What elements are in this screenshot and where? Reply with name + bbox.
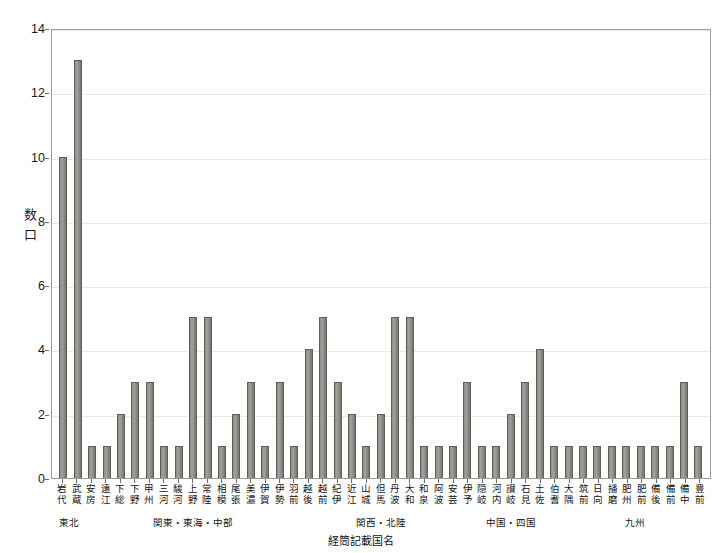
x-tick-label: 肥前 [634,484,648,514]
bar [319,317,327,478]
x-tick-label: 筑前 [576,484,590,514]
x-tick-label-char: 張 [231,495,241,506]
y-tick-label: 6 [1,279,45,293]
x-tick-label: 伯耆 [547,484,561,514]
bar [694,446,702,478]
bar-slot [662,30,676,478]
x-tick-label-char: 向 [593,495,603,506]
bar-slot [301,30,315,478]
bar [88,446,96,478]
x-tick-label-char: 和 [405,495,415,506]
y-tick-mark [45,286,49,287]
x-tick-label-char: 州 [622,495,632,506]
bar-chart: 数口 02468101214 岩代武蔵安房遠江下総下野甲州三河駿河上野常陸相模尾… [0,0,721,553]
x-tick-label-char: 前 [318,495,328,506]
bar [74,60,82,478]
bar [391,317,399,478]
bar-slot [619,30,633,478]
x-tick-label: 下総 [113,484,127,514]
bar-slot [273,30,287,478]
bar-slot [287,30,301,478]
y-tick-label: 14 [1,22,45,36]
x-tick-label-char: 城 [361,495,371,506]
bar-slot [316,30,330,478]
x-tick-label: 尾張 [229,484,243,514]
x-tick-label: 和泉 [417,484,431,514]
x-tick-label-char: 代 [57,495,67,506]
x-tick-label: 三河 [156,484,170,514]
bar-slot [114,30,128,478]
x-tick-label-char: 波 [390,495,400,506]
y-tick-mark [45,479,49,480]
x-tick-label: 肥州 [620,484,634,514]
bar [435,446,443,478]
bar [189,317,197,478]
bar-slot [345,30,359,478]
bar [362,446,370,478]
x-tick-label-char: 予 [463,495,473,506]
bar-slot [229,30,243,478]
x-tick-label-char: 馬 [376,495,386,506]
x-tick-label: 隠岐 [475,484,489,514]
x-tick-label-char: 波 [434,495,444,506]
bar [579,446,587,478]
x-tick-label-char: 陸 [202,495,212,506]
region-group-label: 関東・東海・中部 [153,515,233,529]
bar-slot [70,30,84,478]
x-tick-label-char: 前 [289,495,299,506]
y-axis-ticks: 02468101214 [0,29,45,479]
bar-slot [157,30,171,478]
x-tick-label-char: 江 [101,495,111,506]
bar-slot [359,30,373,478]
x-tick-label-char: 見 [521,495,531,506]
x-tick-label: 伊賀 [258,484,272,514]
bar [175,446,183,478]
x-tick-label: 石見 [519,484,533,514]
bar [406,317,414,478]
x-tick-label-char: 野 [188,495,198,506]
x-tick-label: 甲州 [142,484,156,514]
bar-slot [634,30,648,478]
bar-slot [186,30,200,478]
bar [449,446,457,478]
bar [377,414,385,478]
x-tick-label: 播磨 [605,484,619,514]
bar [608,446,616,478]
bar-slot [489,30,503,478]
x-tick-label-char: 内 [492,495,502,506]
x-tick-label-char: 岐 [477,495,487,506]
x-tick-label: 豊前 [692,484,706,514]
bar-slot [475,30,489,478]
x-tick-label: 丹波 [388,484,402,514]
bar [637,446,645,478]
bar [550,446,558,478]
x-tick-label-char: 後 [303,495,313,506]
x-tick-label-char: 佐 [535,495,545,506]
region-group-label: 九州 [625,515,645,529]
x-tick-label-char: 前 [695,495,705,506]
bar [666,446,674,478]
x-tick-label-char: 前 [579,495,589,506]
x-axis-category-labels: 岩代武蔵安房遠江下総下野甲州三河駿河上野常陸相模尾張美濃伊賀伊勢羽前越後越前紀伊… [51,484,711,514]
x-tick-label-char: 隅 [564,495,574,506]
x-tick-label: 山城 [359,484,373,514]
x-axis-region-labels: 東北関東・東海・中部関西・北陸中国・四国九州 [51,515,711,529]
bar-slot [258,30,272,478]
x-tick-label-char: 野 [130,495,140,506]
bar [478,446,486,478]
bar [507,414,515,478]
x-tick-label-char: 河 [173,495,183,506]
bar-slot [605,30,619,478]
y-tick-label: 10 [1,151,45,165]
y-tick-mark [45,350,49,351]
bar-slot [677,30,691,478]
x-tick-label: 武蔵 [69,484,83,514]
x-tick-label: 羽前 [287,484,301,514]
region-group-label: 東北 [59,515,79,529]
bar [593,446,601,478]
bar-slot [200,30,214,478]
y-tick-mark [45,29,49,30]
bar [334,382,342,478]
x-tick-label: 下野 [127,484,141,514]
bar-slot [56,30,70,478]
